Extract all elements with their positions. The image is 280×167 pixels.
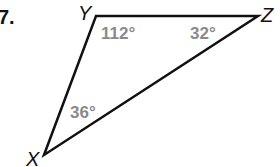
angle-label-x: 36°: [70, 103, 96, 122]
angle-label-y: 112°: [101, 24, 135, 43]
vertex-label-y: Y: [78, 2, 93, 24]
triangle-xyz: [44, 16, 258, 155]
vertex-label-x: X: [25, 148, 40, 167]
triangle-diagram: 7. Y Z X 112° 32° 36°: [0, 0, 280, 167]
angle-label-z: 32°: [190, 24, 216, 43]
problem-number: 7.: [0, 6, 15, 28]
vertex-label-z: Z: [260, 4, 274, 26]
